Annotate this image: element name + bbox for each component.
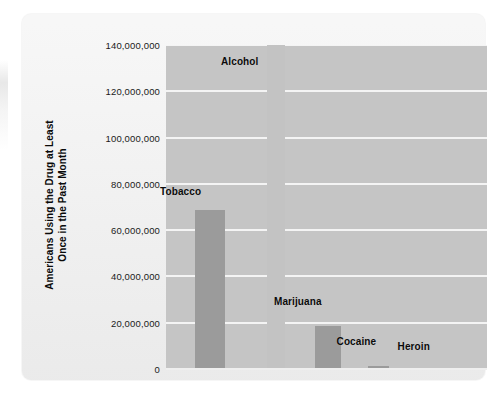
- x-axis-baseline: [166, 368, 487, 370]
- bar-alcohol: [267, 45, 285, 369]
- y-axis-tick-label: 40,000,000: [111, 271, 160, 282]
- y-axis-tick-label: 60,000,000: [111, 225, 160, 236]
- bar-label-alcohol: Alcohol: [221, 56, 258, 67]
- y-axis-tick-labels: 020,000,00040,000,00060,000,00080,000,00…: [70, 45, 160, 369]
- gridline: [166, 45, 487, 46]
- y-axis-tick-label: 140,000,000: [106, 40, 160, 51]
- bar-label-tobacco: Tobacco: [160, 186, 201, 197]
- figure-container: Americans Using the Drug at Least Once i…: [0, 0, 502, 397]
- y-axis-title: Americans Using the Drug at Least Once i…: [43, 89, 69, 321]
- y-axis-title-line2: Once in the Past Month: [56, 89, 69, 321]
- gridline: [166, 137, 487, 139]
- gridline: [166, 90, 487, 92]
- y-axis-tick-label: 120,000,000: [106, 86, 160, 97]
- y-axis-tick-label: 0: [155, 364, 160, 375]
- plot-area: [166, 45, 487, 369]
- page-edge-artifact: [0, 60, 8, 150]
- bar-tobacco: [195, 210, 225, 369]
- gridline: [166, 183, 487, 185]
- bar-label-heroin: Heroin: [398, 341, 430, 352]
- bar-label-marijuana: Marijuana: [274, 296, 322, 307]
- y-axis-tick-label: 20,000,000: [111, 317, 160, 328]
- y-axis-title-line1: Americans Using the Drug at Least: [43, 89, 56, 321]
- chart-panel: Americans Using the Drug at Least Once i…: [22, 14, 485, 380]
- y-axis-tick-label: 100,000,000: [106, 132, 160, 143]
- y-axis-tick-label: 80,000,000: [111, 178, 160, 189]
- bar-marijuana: [315, 326, 341, 369]
- bar-label-cocaine: Cocaine: [337, 336, 377, 347]
